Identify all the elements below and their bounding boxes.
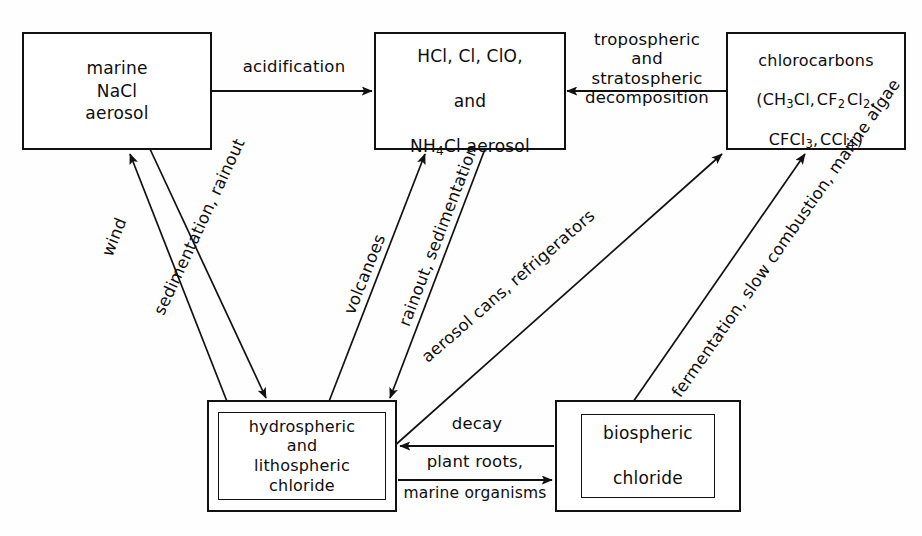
marine-nacl-aerosol-label: marine NaCl aerosol: [85, 57, 148, 124]
chlorine-cycle-diagram: marine NaCl aerosol HCl, Cl, ClO, and NH…: [0, 0, 922, 536]
edge-label-tropospheric-decomposition: tropospheric and stratospheric decomposi…: [572, 30, 722, 108]
edge-label-decay: decay: [412, 414, 542, 434]
hcl-line-3-prefix: NH: [410, 136, 436, 156]
chlorocarbons-line-1: chlorocarbons: [758, 51, 873, 70]
marine-nacl-aerosol-box[interactable]: marine NaCl aerosol: [22, 32, 212, 150]
hydrospheric-lithospheric-chloride-box[interactable]: hydrospheric and lithospheric chloride: [207, 400, 397, 512]
biospheric-chloride-label: biospheric chloride: [603, 422, 693, 489]
edge-label-acidification: acidification: [224, 57, 364, 77]
hydrospheric-chloride-inner-frame: hydrospheric and lithospheric chloride: [218, 412, 386, 500]
hcl-cl-clo-nh4cl-aerosol-label: HCl, Cl, ClO, and NH4Cl aerosol: [410, 23, 530, 159]
hcl-line-3-subscript: 4: [436, 144, 444, 158]
hcl-line-3-suffix: Cl aerosol: [444, 136, 530, 156]
edge-label-marine-organisms: marine organisms: [390, 484, 560, 503]
biospheric-chloride-inner-frame: biospheric chloride: [581, 414, 715, 498]
edge-label-plant-roots: plant roots,: [400, 452, 550, 472]
edge-fermentation-slow-combustion: [633, 154, 805, 402]
biospheric-chloride-box[interactable]: biospheric chloride: [555, 400, 741, 512]
hcl-line-2: and: [454, 91, 487, 111]
hcl-line-1: HCl, Cl, ClO,: [417, 46, 523, 66]
hcl-cl-clo-nh4cl-aerosol-box[interactable]: HCl, Cl, ClO, and NH4Cl aerosol: [374, 32, 566, 150]
chlorocarbons-formula-line-1: (CH3Cl, CF2 Cl2,: [756, 90, 876, 109]
hydrospheric-lithospheric-chloride-label: hydrospheric and lithospheric chloride: [249, 417, 355, 495]
